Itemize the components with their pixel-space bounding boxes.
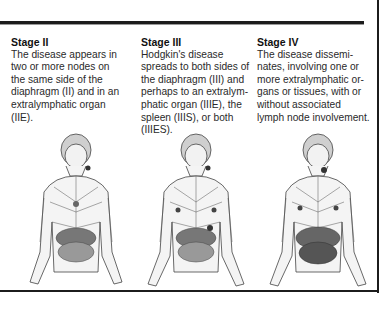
affected-node-marker [334, 206, 339, 211]
stage-3-line: perhaps to an extralym- [141, 86, 256, 99]
stage-3-line: spreads to both sides of [141, 61, 256, 74]
stage-2-line: (IIE). [11, 112, 131, 125]
stage-4-line: gans or tissues, with or [257, 86, 375, 99]
stage-2-line: diaphragm (II) and in an [11, 86, 131, 99]
intestines-illustration [56, 228, 96, 262]
affected-node-marker [212, 208, 217, 213]
affected-node-marker [298, 206, 303, 211]
stage-4-line: lymph node involvement. [257, 112, 375, 125]
stage-3-line: phatic organ (IIIE), the [141, 99, 256, 112]
affected-node-marker [321, 167, 327, 173]
lymphatic-figure-stage-4 [262, 128, 376, 290]
stage-2-column: Stage II The disease appears in two or m… [11, 36, 131, 124]
right-border [377, 0, 379, 293]
affected-organ-marker [73, 201, 79, 207]
stage-3-line: Hodgkin's disease [141, 49, 256, 62]
top-rule-shadow [0, 24, 364, 25]
stage-2-line: The disease appears in [11, 49, 131, 62]
lymphatic-figure-stage-3 [138, 132, 256, 290]
stage-2-line: extralymphatic organ [11, 99, 131, 112]
stage-4-line: The disease dissemi- [257, 49, 375, 62]
stage-3-title: Stage III [141, 36, 256, 49]
stage-4-line: without associated [257, 99, 375, 112]
bottom-border [0, 290, 379, 292]
affected-node-marker [176, 208, 181, 213]
stage-4-line: more extralymphatic or- [257, 74, 375, 87]
intestines-illustration [176, 228, 216, 262]
stage-4-line: nates, involving one or [257, 61, 375, 74]
lymphatic-figure-stage-2 [14, 132, 134, 290]
stage-3-column: Stage III Hodgkin's disease spreads to b… [141, 36, 256, 137]
stage-4-title: Stage IV [257, 36, 375, 49]
stage-2-line: two or more nodes on [11, 61, 131, 74]
stage-3-line: the diaphragm (III) and [141, 74, 256, 87]
stage-3-line: spleen (IIIS), or both [141, 112, 256, 125]
affected-node-marker [86, 166, 91, 171]
stage-2-line: the same side of the [11, 74, 131, 87]
stage-4-column: Stage IV The disease dissemi- nates, inv… [257, 36, 375, 124]
spleen-marker [207, 225, 213, 231]
stage-2-title: Stage II [11, 36, 131, 49]
affected-node-marker [206, 166, 211, 171]
intestines-illustration [296, 227, 340, 264]
